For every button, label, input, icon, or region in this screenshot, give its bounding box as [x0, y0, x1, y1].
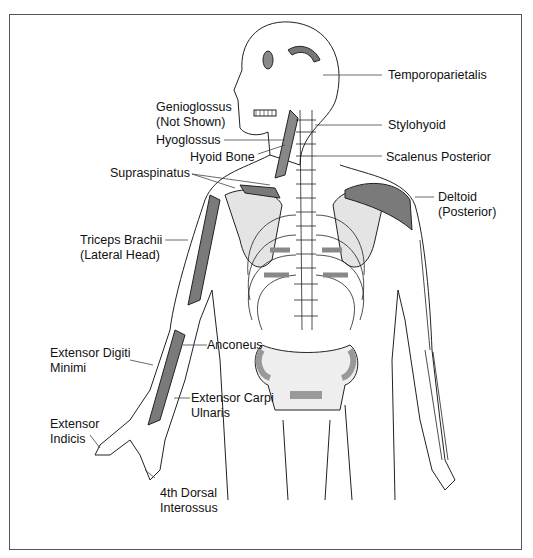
spine: [294, 110, 318, 330]
label-hyoid-bone: Hyoid Bone: [190, 150, 255, 165]
label-genioglossus: Genioglossus(Not Shown): [156, 100, 232, 130]
label-hyoglossus: Hyoglossus: [156, 133, 221, 148]
anatomy-figure: [0, 0, 533, 558]
label-extensor-indicis: ExtensorIndicis: [50, 417, 99, 447]
label-deltoid: Deltoid(Posterior): [438, 190, 496, 220]
label-anconeus: Anconeus: [207, 338, 263, 353]
temporoparietalis-muscle: [288, 46, 320, 62]
label-temporoparietalis: Temporoparietalis: [388, 68, 487, 83]
triceps-muscle: [188, 195, 220, 305]
label-extensor-carpi-ulnaris: Extensor CarpiUlnaris: [191, 391, 274, 421]
label-triceps-brachii: Triceps Brachii(Lateral Head): [80, 233, 162, 263]
label-extensor-digiti-minimi: Extensor DigitiMinimi: [50, 346, 131, 376]
right-arm-bones: [420, 240, 448, 460]
neck-muscles: [275, 110, 298, 178]
label-scalenus-posterior: Scalenus Posterior: [386, 150, 491, 165]
label-stylohyoid: Stylohyoid: [388, 118, 446, 133]
left-scapula: [225, 190, 282, 267]
forearm-extensors: [148, 330, 185, 425]
label-supraspinatus: Supraspinatus: [110, 166, 190, 181]
label-4th-dorsal-interossus: 4th DorsalInterossus: [160, 486, 218, 516]
